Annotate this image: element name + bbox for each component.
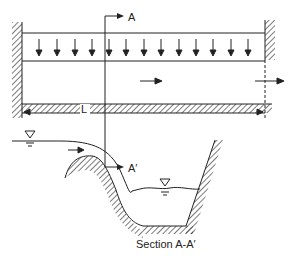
channel-water-surface [140,187,200,189]
section-caption: Section A-A′ [136,238,196,250]
right-wall [265,20,275,60]
section-view: Section A-A′ [12,131,223,250]
water-surface-symbol-left [25,131,35,146]
length-label: L [81,103,87,115]
right-bank [186,140,223,234]
section-label-top: A [128,11,136,23]
section-label-bottom: A′ [128,162,137,174]
lateral-inflow-arrows [36,39,251,56]
channel-diagram: L A A′ [0,0,293,258]
water-surface-symbol-right [160,179,170,195]
section-flow-arrow [68,147,84,153]
plan-view: L A A′ [12,11,284,174]
left-wall [12,22,22,118]
channel-bed [22,104,272,113]
flow-arrow [140,78,284,84]
channel-bottom [143,226,193,234]
